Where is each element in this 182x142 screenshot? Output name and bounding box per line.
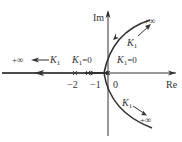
left-gain-arrow bbox=[31, 58, 49, 63]
upper-gain-label: K1 bbox=[126, 37, 138, 50]
upper-curve-arrow-icon bbox=[113, 33, 119, 40]
lower-gain-label: K1 bbox=[121, 97, 133, 110]
root-locus-diagram: Im Re −2 −1 0 +∞ K1 K1=0 K1=0 K1 +∞ K1 +… bbox=[0, 0, 182, 142]
tick-label-minus-1: −1 bbox=[90, 79, 101, 90]
left-infinity-label: +∞ bbox=[12, 55, 24, 65]
upper-infinity-label: +∞ bbox=[144, 16, 156, 26]
tick-label-minus-2: −2 bbox=[67, 79, 78, 90]
left-gain-label: K1 bbox=[49, 54, 61, 67]
real-axis-label: Re bbox=[166, 79, 178, 90]
lower-infinity-label: +∞ bbox=[140, 115, 152, 125]
k0-right-label: K1=0 bbox=[116, 54, 137, 67]
k0-left-label: K1=0 bbox=[71, 54, 92, 67]
imag-axis-label: Im bbox=[93, 12, 104, 23]
tick-label-zero: 0 bbox=[113, 79, 118, 90]
